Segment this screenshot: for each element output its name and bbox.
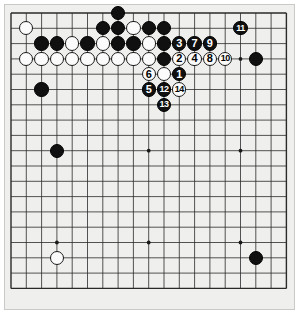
white-stone [65, 52, 79, 66]
white-stone [80, 52, 94, 66]
white-stone [50, 52, 64, 66]
black-stone [96, 21, 110, 35]
move-number-label: 11 [236, 24, 245, 33]
black-stone [111, 6, 125, 20]
move-stone-11: 11 [233, 21, 247, 35]
white-stone [50, 251, 64, 265]
white-stone [34, 52, 48, 66]
move-number-label: 7 [192, 38, 198, 49]
move-number-label: 8 [207, 53, 213, 64]
black-stone [80, 36, 94, 50]
move-stone-13: 13 [157, 98, 171, 112]
move-number-label: 2 [176, 53, 182, 64]
move-stone-4: 4 [187, 52, 201, 66]
black-stone [111, 36, 125, 50]
black-stone [249, 251, 263, 265]
black-stone [111, 21, 125, 35]
move-stone-3: 3 [172, 36, 186, 50]
black-stone [157, 52, 171, 66]
black-stone [249, 52, 263, 66]
white-stone [96, 52, 110, 66]
move-stone-9: 9 [203, 36, 217, 50]
move-number-label: 3 [176, 38, 182, 49]
move-stone-1: 1 [172, 67, 186, 81]
white-stone [157, 67, 171, 81]
white-stone [142, 52, 156, 66]
black-stone [34, 82, 48, 96]
white-stone [19, 52, 33, 66]
black-stone [34, 36, 48, 50]
move-stone-7: 7 [187, 36, 201, 50]
black-stone [50, 144, 64, 158]
move-number-label: 10 [221, 54, 230, 63]
move-stone-5: 5 [142, 82, 156, 96]
move-stone-6: 6 [142, 67, 156, 81]
black-stone [50, 36, 64, 50]
black-stone [126, 36, 140, 50]
move-stone-2: 2 [172, 52, 186, 66]
move-stone-10: 10 [218, 52, 232, 66]
white-stone [126, 52, 140, 66]
move-number-label: 13 [159, 100, 168, 109]
move-number-label: 4 [192, 53, 198, 64]
move-number-label: 12 [159, 85, 168, 94]
move-number-label: 6 [146, 69, 152, 80]
white-stone [96, 36, 110, 50]
white-stone [142, 36, 156, 50]
move-stone-12: 12 [157, 82, 171, 96]
move-number-label: 1 [176, 69, 182, 80]
stone-layer: 3792481011615121413 [0, 0, 299, 314]
move-stone-8: 8 [203, 52, 217, 66]
black-stone [157, 36, 171, 50]
move-number-label: 9 [207, 38, 213, 49]
black-stone [157, 21, 171, 35]
move-number-label: 14 [175, 85, 184, 94]
white-stone [65, 36, 79, 50]
white-stone [126, 21, 140, 35]
go-diagram-root: 3792481011615121413 [0, 0, 299, 314]
white-stone [19, 21, 33, 35]
move-stone-14: 14 [172, 82, 186, 96]
white-stone [111, 52, 125, 66]
black-stone [142, 21, 156, 35]
move-number-label: 5 [146, 84, 152, 95]
